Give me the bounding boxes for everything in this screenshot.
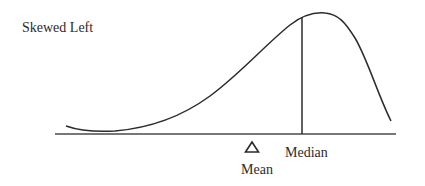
- skewed-left-diagram: Skewed Left Median Mean: [0, 0, 425, 186]
- median-label: Median: [285, 146, 328, 160]
- distribution-curve: [66, 13, 391, 132]
- mean-label: Mean: [241, 163, 273, 177]
- diagram-title: Skewed Left: [22, 21, 93, 35]
- mean-triangle-icon: [246, 142, 259, 152]
